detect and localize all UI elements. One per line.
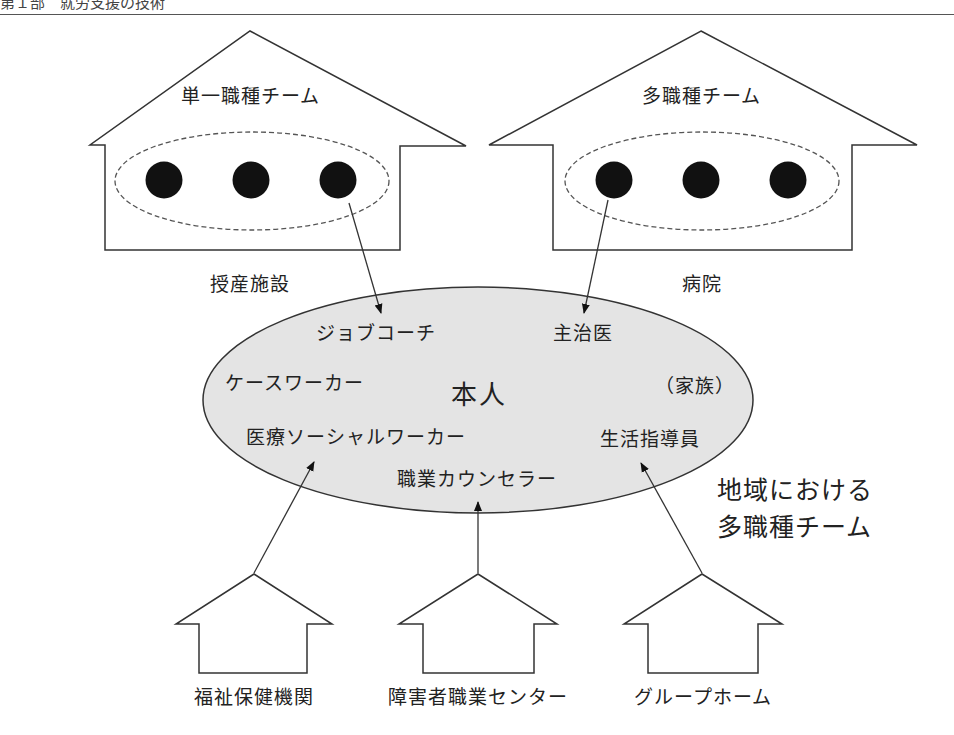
- house-sheltered-workshop: [90, 31, 466, 250]
- role-medical-social-worker: 医療ソーシャルワーカー: [246, 428, 466, 447]
- welfare-health-agency-label: 福祉保健機関: [194, 688, 314, 707]
- role-family: （家族）: [655, 377, 735, 396]
- house-welfare-health-agency: [176, 574, 332, 673]
- role-life-instructor: 生活指導員: [600, 430, 700, 449]
- member-dot: [770, 162, 807, 199]
- person-self: 本人: [451, 382, 507, 408]
- vocational-center-label: 障害者職業センター: [388, 688, 568, 707]
- group-home-label: グループホーム: [634, 688, 772, 707]
- role-vocational-counselor: 職業カウンセラー: [397, 470, 557, 489]
- sheltered-workshop-label: 授産施設: [210, 275, 290, 294]
- single-discipline-team-label: 単一職種チーム: [181, 87, 320, 106]
- hospital-label: 病院: [682, 275, 722, 294]
- region-label-line2: 多職種チーム: [717, 515, 872, 540]
- house-group-home: [624, 574, 782, 673]
- role-attending-physician: 主治医: [553, 324, 613, 343]
- role-case-worker: ケースワーカー: [225, 374, 364, 393]
- house-vocational-center: [399, 574, 557, 673]
- team-diagram: [0, 0, 954, 735]
- member-dot: [683, 162, 720, 199]
- member-dot: [596, 162, 633, 199]
- region-label-line1: 地域における: [717, 478, 873, 503]
- multi-discipline-team-label: 多職種チーム: [642, 87, 761, 106]
- member-dot: [146, 162, 183, 199]
- role-job-coach: ジョブコーチ: [316, 324, 436, 343]
- member-dot: [320, 162, 357, 199]
- house-outline: [489, 31, 917, 250]
- house-hospital: [489, 31, 917, 250]
- house-outline: [90, 31, 466, 250]
- member-dot: [233, 162, 270, 199]
